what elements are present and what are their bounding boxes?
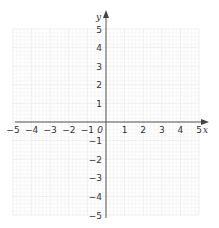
- x-tick-label: −1: [81, 125, 94, 135]
- x-tick-label: 3: [159, 125, 165, 135]
- y-tick-label: −1: [89, 136, 102, 146]
- x-tick-label: 5: [196, 125, 202, 135]
- y-tick-label: 4: [96, 43, 102, 53]
- x-tick-label: 4: [178, 125, 184, 135]
- y-tick-label: 2: [96, 80, 102, 90]
- y-tick-label: −4: [89, 192, 103, 202]
- y-tick-label: 1: [96, 99, 102, 109]
- coordinate-grid: −5−4−3−2−101234554321−1−2−3−4−5 x y: [0, 0, 219, 228]
- x-tick-label: 1: [122, 125, 128, 135]
- x-tick-label: −4: [25, 125, 39, 135]
- y-tick-label: −2: [89, 155, 102, 165]
- y-axis-arrow-icon: [103, 10, 109, 18]
- x-tick-label: 2: [140, 125, 146, 135]
- y-tick-label: 3: [96, 62, 102, 72]
- y-axis-label: y: [95, 12, 102, 22]
- x-tick-label: −5: [6, 125, 19, 135]
- y-tick-label: 5: [96, 25, 102, 35]
- x-tick-label: −3: [44, 125, 57, 135]
- axes: [15, 10, 209, 218]
- y-tick-label: −3: [89, 173, 102, 183]
- y-tick-label: −5: [89, 211, 102, 221]
- x-tick-label: −2: [62, 125, 75, 135]
- origin-label: 0: [97, 125, 103, 135]
- x-axis-label: x: [203, 125, 208, 135]
